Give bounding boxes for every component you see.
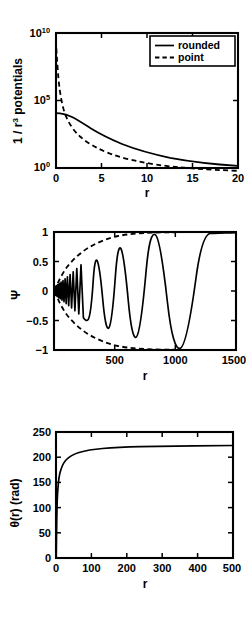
x-tick-label-top-0: 0 xyxy=(53,172,59,184)
x-tick-label-mid-2: 1000 xyxy=(163,354,187,366)
chart-panel-wavefunction: Ψ 1 0.5 0 −0.5 −1 xyxy=(0,200,252,405)
chart-panel-phase: θ(r) (rad) 250 200 150 100 50 0 xyxy=(0,405,252,619)
y-tick-label-top-1: 105 xyxy=(34,93,50,106)
svg-text:1 / r3 potentials: 1 / r3 potentials xyxy=(11,58,25,144)
y-axis-title-middle: Ψ xyxy=(9,290,23,300)
y-tick-label-bot-2: 150 xyxy=(33,476,51,488)
legend-label-rounded: rounded xyxy=(178,39,220,51)
x-tick-label-bot-5: 500 xyxy=(223,562,241,574)
curve-theta-bottom xyxy=(56,446,233,559)
legend-top[interactable]: rounded point xyxy=(150,36,235,66)
y-axis-title-bottom: θ(r) (rad) xyxy=(8,478,22,527)
y-tick-label-top-0: 1010 xyxy=(30,26,50,39)
y-axis-title-top: 1 / r3 potentials xyxy=(11,58,25,144)
x-tick-label-bot-1: 100 xyxy=(82,562,100,574)
y-tick-label-mid-2: 0 xyxy=(42,285,48,297)
curve-rounded-top xyxy=(56,113,238,166)
x-tick-label-bot-2: 200 xyxy=(118,562,136,574)
x-axis-title-top: r xyxy=(145,186,150,200)
y-tick-label-mid-3: −0.5 xyxy=(26,315,48,327)
x-tick-label-top-2: 10 xyxy=(141,172,153,184)
x-tick-label-top-3: 15 xyxy=(186,172,198,184)
curve-envelope-lower-middle xyxy=(55,291,237,350)
phase-plot-svg: θ(r) (rad) 250 200 150 100 50 0 xyxy=(0,405,252,619)
x-tick-label-mid-1: 500 xyxy=(106,354,124,366)
x-tick-label-bot-4: 400 xyxy=(188,562,206,574)
x-axis-title-middle: r xyxy=(143,369,148,383)
svg-text:θ(r) (rad): θ(r) (rad) xyxy=(8,478,22,527)
figure-container: 1 / r3 potentials 1010 105 100 xyxy=(0,0,252,619)
y-tick-label-bot-0: 250 xyxy=(33,426,51,438)
y-tick-label-bot-5: 0 xyxy=(45,552,51,564)
chart-panel-potentials: 1 / r3 potentials 1010 105 100 xyxy=(0,0,252,200)
potentials-plot-svg: 1 / r3 potentials 1010 105 100 xyxy=(0,0,252,200)
curve-psi-middle xyxy=(54,233,236,349)
legend-label-point: point xyxy=(178,51,204,63)
y-tick-label-top-2: 100 xyxy=(34,160,50,173)
y-tick-label-mid-1: 0.5 xyxy=(33,256,48,268)
y-tick-label-bot-1: 200 xyxy=(33,451,51,463)
x-tick-label-mid-3: 1500 xyxy=(222,354,246,366)
y-tick-label-mid-4: −1 xyxy=(35,344,48,356)
x-tick-label-bot-3: 300 xyxy=(153,562,171,574)
x-tick-label-bot-0: 0 xyxy=(53,562,59,574)
y-tick-label-mid-0: 1 xyxy=(42,226,48,238)
y-tick-label-bot-3: 100 xyxy=(33,502,51,514)
x-tick-label-top-4: 20 xyxy=(232,172,244,184)
wavefunction-plot-svg: Ψ 1 0.5 0 −0.5 −1 xyxy=(0,200,252,405)
svg-text:Ψ: Ψ xyxy=(9,290,23,300)
x-axis-title-bottom: r xyxy=(143,577,148,591)
x-tick-label-top-1: 5 xyxy=(98,172,104,184)
y-tick-label-bot-4: 50 xyxy=(39,527,51,539)
